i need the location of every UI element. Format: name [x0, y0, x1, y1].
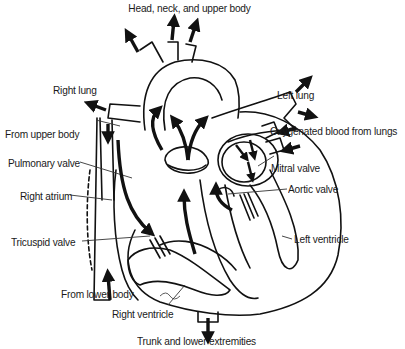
label-left-lung: Left lung [277, 89, 314, 101]
arrow-pulmonary-split-right [188, 120, 204, 160]
arrow-right-lung [90, 104, 106, 110]
label-from-lower-body: From lower body [61, 288, 134, 300]
arrow-right-ventricle-up [184, 195, 195, 254]
right-ventricle-wall [128, 248, 230, 295]
arrow-head-neck-right [190, 24, 196, 42]
label-oxygenated-blood: Oxygenated blood from lungs [270, 125, 397, 137]
aorta [144, 60, 239, 130]
label-tricuspid-valve: Tricuspid valve [11, 236, 75, 248]
heart-outline [128, 112, 341, 315]
label-from-upper-body: From upper body [5, 128, 79, 140]
label-trunk-lower-extremities: Trunk and lower extremities [137, 335, 256, 347]
arrow-right-atrium-down [118, 140, 150, 232]
label-pulmonary-valve: Pulmonary valve [8, 157, 80, 169]
label-aortic-valve: Aortic valve [288, 183, 338, 195]
arrow-head-neck-left [128, 34, 138, 52]
arrow-left-lung-lower [298, 112, 312, 116]
arrow-oxygenated-2 [286, 146, 300, 150]
heart-diagram: Head, neck, and upper body Right lung Le… [0, 0, 405, 349]
label-left-ventricle: Left ventricle [294, 233, 349, 245]
label-right-atrium: Right atrium [20, 190, 72, 202]
label-right-ventricle: Right ventricle [112, 308, 173, 320]
label-right-lung: Right lung [53, 84, 97, 96]
arrow-pulmonary-split-left [174, 120, 188, 160]
arrow-head-neck-mid [172, 20, 174, 40]
arrow-pulmonary-up [152, 110, 162, 150]
label-head-neck-upper-body: Head, neck, and upper body [128, 2, 250, 14]
label-mitral-valve: Mitral valve [271, 162, 320, 174]
